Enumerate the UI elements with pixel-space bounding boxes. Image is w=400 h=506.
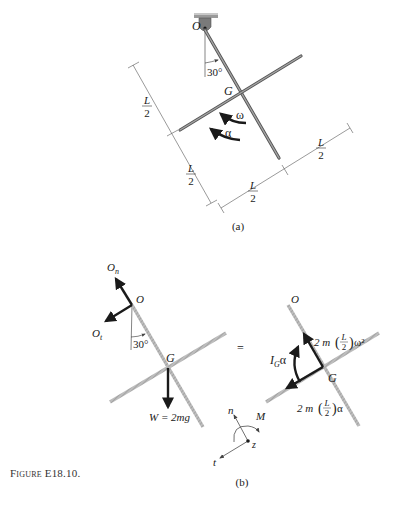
svg-text:(: ( (318, 401, 323, 417)
svg-text:2: 2 (325, 408, 330, 418)
vertical-reference-line (131, 305, 132, 350)
pivot-label-fbd: O (136, 293, 144, 305)
figure-canvas: O 30° G ω α L 2 L 2 L 2 L 2 (a) On Ot O … (0, 0, 400, 506)
t-axis-label: t (213, 456, 217, 468)
svg-text:2: 2 (318, 149, 324, 161)
normal-inertia-label: 2 m ( L 2 ) ω² (314, 332, 365, 352)
moment-inertia-label: IGα (269, 353, 287, 369)
svg-text:L: L (323, 398, 329, 408)
svg-text:2 m: 2 m (314, 336, 330, 348)
reaction-ot-label: Ot (92, 327, 103, 342)
figure-caption: Figure E18.10. (10, 467, 80, 479)
svg-text:L: L (249, 179, 256, 191)
weight-label: W = 2mg (149, 411, 191, 423)
svg-text:α: α (337, 402, 343, 414)
svg-text:L: L (340, 332, 346, 342)
n-axis-label: n (228, 404, 234, 416)
tangential-inertia-arrow (287, 367, 323, 388)
svg-text:L: L (143, 94, 150, 106)
center-label-kd: G (328, 371, 337, 385)
moment-axis-label: M (255, 410, 266, 422)
angle-label-fbd: 30° (133, 338, 148, 350)
svg-text:2: 2 (144, 107, 150, 119)
center-label-a: G (224, 84, 233, 98)
coordinate-axes (220, 415, 259, 458)
z-axis-origin (246, 439, 250, 443)
svg-text:2: 2 (342, 342, 347, 352)
dim-fraction-bottom-left: L 2 (248, 179, 258, 204)
pivot-label-kd: O (291, 293, 299, 305)
svg-text:2: 2 (188, 175, 194, 187)
dim-fraction-left-lower: L 2 (186, 162, 196, 187)
t-axis (220, 441, 248, 458)
panel-a-label: (a) (232, 220, 245, 233)
angle-arc (131, 334, 145, 337)
svg-text:(: ( (335, 335, 340, 351)
omega-label: ω (236, 108, 244, 122)
alpha-label: α (225, 126, 232, 140)
z-axis-label: z (251, 439, 256, 450)
reaction-on-label: On (107, 261, 119, 276)
dim-fraction-bottom-right: L 2 (316, 136, 326, 161)
reaction-ot-arrow (106, 305, 132, 321)
svg-text:ω²: ω² (354, 336, 365, 348)
dimension-line-bottom (221, 128, 350, 208)
equals-sign: = (237, 341, 244, 355)
n-axis (234, 415, 248, 441)
pivot-label-a: O (192, 19, 201, 33)
panel-b-label: (b) (236, 476, 249, 489)
angle-label-a: 30° (207, 66, 222, 78)
dim-fraction-left-upper: L 2 (142, 94, 152, 119)
moment-inertia-arrow-icon (294, 347, 300, 382)
reaction-on-arrow (116, 279, 132, 305)
svg-text:L: L (187, 162, 194, 174)
dimension-line-left (133, 65, 211, 203)
svg-text:2: 2 (250, 192, 256, 204)
center-label-fbd: G (166, 351, 175, 365)
tangential-inertia-label: 2 m ( L 2 ) α (297, 398, 343, 418)
svg-text:L: L (317, 136, 324, 148)
angle-arc (205, 60, 218, 63)
svg-text:2 m: 2 m (297, 402, 313, 414)
